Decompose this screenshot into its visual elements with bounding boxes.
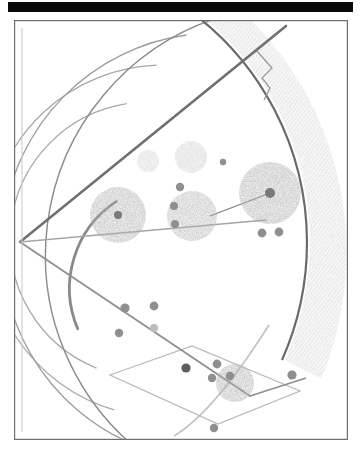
- node-right-pair-a: [258, 229, 267, 238]
- node-blob-edge-b: [170, 202, 178, 210]
- node-quad-corner-top: [181, 363, 190, 372]
- node-blob-edge-a: [176, 183, 184, 191]
- node-lower-mid-a: [150, 302, 159, 311]
- blob-faint-upper-large: [175, 141, 207, 173]
- blob-mid-center: [167, 191, 217, 241]
- node-quad-b: [208, 374, 216, 382]
- node-right-pair-b: [275, 228, 284, 237]
- figure-frame: [14, 20, 348, 440]
- node-lower-left-a: [120, 303, 129, 312]
- blob-mid-left-core-dot: [114, 211, 122, 219]
- node-bottom-stray: [210, 424, 218, 432]
- node-blob-edge-c: [171, 220, 179, 228]
- geometric-construction-figure: [14, 20, 348, 440]
- diagram-page: [0, 0, 361, 455]
- blob-large-right-core-dot: [265, 188, 275, 198]
- node-quad-right: [287, 370, 296, 379]
- node-lower-left-b: [115, 329, 123, 337]
- node-quad-c: [226, 372, 234, 380]
- black-header-bar: [8, 2, 353, 12]
- node-quad-a: [213, 360, 222, 369]
- node-lower-mid-b: [150, 324, 158, 332]
- blob-faint-upper-small: [137, 150, 159, 172]
- blob-bottom: [216, 364, 254, 402]
- node-upper-right-small: [220, 159, 226, 165]
